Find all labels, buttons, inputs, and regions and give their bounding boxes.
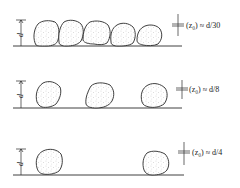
pebble	[83, 21, 110, 45]
row-dense: d (z₀) ≈ d/30	[13, 14, 220, 46]
z0-label: (z₀) ≈ d/4	[192, 148, 222, 157]
pebble	[59, 20, 84, 46]
d-dimension-marker: d	[16, 20, 26, 46]
pebble	[141, 84, 167, 108]
z0-label: (z₀) ≈ d/30	[186, 21, 220, 30]
z0-marker	[178, 142, 190, 165]
row-sparse: d (z₀) ≈ d/4	[13, 142, 222, 175]
pebble	[137, 25, 162, 46]
pebble	[86, 83, 114, 108]
pebble	[36, 149, 62, 174]
d-dimension-marker: d	[16, 81, 26, 108]
d-dimension-marker: d	[16, 149, 26, 175]
pebble	[36, 82, 61, 108]
d-label: d	[16, 161, 25, 166]
pebble	[111, 23, 136, 46]
pebble	[34, 21, 59, 46]
d-label: d	[16, 93, 25, 98]
row-medium: d (z₀) ≈ d/8	[13, 80, 219, 108]
d-label: d	[16, 32, 25, 37]
z0-marker	[172, 14, 184, 36]
roughness-diagram: d (z₀) ≈ d/30 d (z₀) ≈ d/8	[0, 0, 240, 188]
z0-label: (z₀) ≈ d/8	[189, 85, 219, 94]
z0-marker	[176, 80, 188, 99]
pebble	[143, 151, 169, 175]
